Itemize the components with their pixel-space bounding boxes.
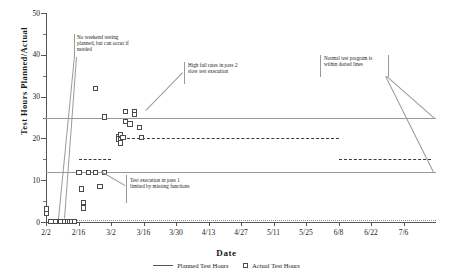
annotation-test-execution-limited: Test execution in pass 1 limited by miss…: [130, 177, 198, 189]
x-tick-label: 7/6: [384, 228, 424, 237]
y-tick-label: 50: [20, 10, 40, 17]
x-tick: [46, 222, 47, 226]
leader-normal-lower: [385, 76, 434, 172]
y-tick: [41, 13, 46, 14]
x-tick: [371, 222, 372, 226]
x-tick: [176, 222, 177, 226]
leader-normal-upper: [386, 76, 435, 119]
y-tick: [41, 138, 46, 139]
data-point: [72, 219, 77, 224]
y-axis-title: Test Hours Planned/Actual: [19, 11, 29, 151]
data-point: [79, 186, 84, 191]
annotation-no-weekend-testing: No weekend testing planned, but can occu…: [77, 34, 135, 53]
x-tick: [241, 222, 242, 226]
planned-segment-baseline-zero: [51, 220, 436, 221]
data-point: [118, 140, 123, 145]
chart-figure: Test Hours Planned/Actual Date 010203040…: [0, 0, 453, 278]
legend-label-actual: Actual Test Hours: [252, 262, 300, 269]
x-tick: [274, 222, 275, 226]
y-tick: [41, 97, 46, 98]
data-point: [137, 125, 142, 130]
y-tick-minor: [43, 201, 46, 202]
leader-test-exec: [101, 171, 125, 186]
x-tick: [339, 222, 340, 226]
planned-segment-plateau-20: [127, 138, 338, 139]
actual-marker-swatch: [243, 263, 248, 268]
legend-item-actual: Actual Test Hours: [243, 262, 300, 269]
data-point: [86, 170, 91, 175]
y-tick-minor: [43, 159, 46, 160]
x-tick: [144, 222, 145, 226]
y-tick: [41, 55, 46, 56]
planned-segment-step-down-15: [339, 159, 432, 160]
data-point: [127, 121, 132, 126]
bar-no-weekend: [74, 34, 75, 56]
data-point: [76, 170, 81, 175]
planned-segment-ramp-dashes-15: [79, 159, 112, 160]
leader-high-fail: [145, 72, 183, 111]
data-point: [123, 109, 128, 114]
data-point: [120, 135, 125, 140]
planned-line-swatch: [153, 265, 173, 266]
data-point: [139, 135, 144, 140]
x-tick: [209, 222, 210, 226]
x-tick: [111, 222, 112, 226]
x-tick: [79, 222, 80, 226]
bar-test-exec: [126, 175, 127, 203]
legend-label-planned: Planned Test Hours: [177, 262, 228, 269]
x-tick: [404, 222, 405, 226]
y-tick-label: 0: [20, 219, 40, 226]
data-point: [81, 205, 86, 210]
annotation-high-fail-rates: High fail rates in pass 2 slow test exec…: [188, 62, 250, 74]
y-tick-label: 10: [20, 177, 40, 184]
data-point: [93, 86, 98, 91]
y-tick-minor: [43, 76, 46, 77]
annotation-normal-test-program: Normal test program is within dotted lin…: [324, 55, 386, 67]
bar-high-fail: [184, 62, 185, 84]
bar-normal-left: [320, 55, 321, 77]
bar-normal-right: [388, 55, 389, 77]
legend-item-planned: Planned Test Hours: [153, 262, 228, 269]
y-tick-minor: [43, 34, 46, 35]
plot-area: 01020304050 2/22/163/23/163/304/134/275/…: [46, 13, 436, 222]
data-point: [44, 211, 49, 216]
y-tick-label: 30: [20, 93, 40, 100]
data-point: [93, 170, 98, 175]
y-tick-label: 40: [20, 51, 40, 58]
y-tick: [41, 180, 46, 181]
x-axis-title: Date: [0, 248, 453, 258]
data-point: [102, 114, 107, 119]
chart-legend: Planned Test Hours Actual Test Hours: [0, 262, 453, 269]
x-tick: [306, 222, 307, 226]
data-point: [97, 184, 102, 189]
y-tick-label: 20: [20, 135, 40, 142]
data-point: [132, 112, 137, 117]
